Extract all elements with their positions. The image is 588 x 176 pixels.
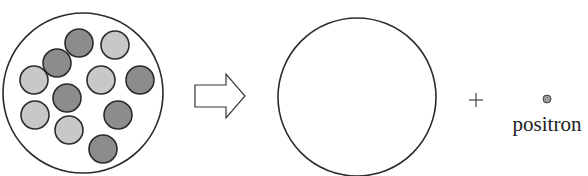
neutron-icon bbox=[104, 101, 132, 129]
nucleons-group bbox=[20, 29, 154, 163]
decay-diagram: + positron bbox=[0, 0, 588, 176]
plus-sign-icon bbox=[469, 93, 483, 107]
neutron-icon bbox=[43, 49, 71, 77]
proton-icon bbox=[21, 101, 49, 129]
proton-icon bbox=[101, 31, 129, 59]
daughter-nucleus-outline bbox=[278, 18, 436, 176]
proton-icon bbox=[87, 66, 115, 94]
positron-icon bbox=[543, 95, 551, 103]
neutron-icon bbox=[89, 135, 117, 163]
proton-icon bbox=[55, 116, 83, 144]
reaction-arrow-icon bbox=[195, 74, 245, 118]
neutron-icon bbox=[65, 29, 93, 57]
positron-label: positron bbox=[513, 112, 582, 136]
proton-icon bbox=[20, 66, 48, 94]
neutron-icon bbox=[53, 84, 81, 112]
neutron-icon bbox=[126, 66, 154, 94]
